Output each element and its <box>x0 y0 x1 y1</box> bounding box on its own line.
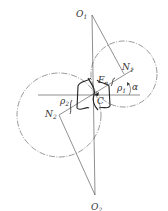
gear-contact-diagram: O1 O2 N1 N2 Fn ρ1 ρ2 C α <box>0 0 168 211</box>
label-alpha: α <box>132 82 138 92</box>
radius-line-1 <box>92 15 124 74</box>
label-O1: O1 <box>76 9 87 20</box>
radius-line-2 <box>59 115 95 195</box>
label-rho1: ρ1 <box>116 83 126 94</box>
label-N2: N2 <box>44 109 57 120</box>
label-Fn: Fn <box>97 75 108 86</box>
label-N1: N1 <box>121 62 134 73</box>
label-rho2: ρ2 <box>59 96 69 107</box>
label-C: C <box>97 96 104 106</box>
tooth-profile-left <box>77 78 91 109</box>
label-O2: O2 <box>91 202 102 211</box>
